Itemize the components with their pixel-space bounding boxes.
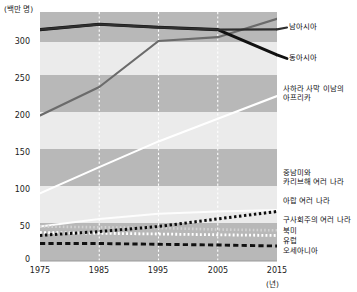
x-axis-tick-1995: 1995	[138, 266, 178, 275]
x-axis-tick-1975: 1975	[20, 266, 60, 275]
series-label-arab-states: 아랍 여러 나라	[283, 196, 330, 205]
x-axis-tick-2015: 2015	[257, 266, 297, 275]
series-label-latin-america-line1: 중남미와	[283, 168, 311, 177]
series-label-east-asia: 동아시아	[289, 53, 317, 62]
x-axis-tick-1985: 1985	[79, 266, 119, 275]
chart-container: (백만 명) 300 250 200 150 100 50 0	[0, 0, 357, 292]
series-label-south-asia: 남아시아	[289, 22, 317, 31]
series-label-europe: 유럽	[283, 236, 297, 245]
series-label-former-socialist: 구사회주의 여러 나라	[283, 215, 351, 224]
series-label-sub-saharan-africa-line1: 사하라 사막 이남의	[283, 84, 344, 93]
x-axis-unit-label: (년)	[266, 278, 279, 289]
series-label-latin-america-line2: 카리브해 여러 나라	[283, 177, 344, 186]
series-label-north-america: 북미	[283, 226, 297, 235]
x-axis-tick-2005: 2005	[198, 266, 238, 275]
series-label-sub-saharan-africa-line2: 아프리카	[283, 93, 311, 102]
series-label-oceania: 오세아니아	[283, 246, 318, 255]
label-leader-lines	[277, 28, 287, 59]
